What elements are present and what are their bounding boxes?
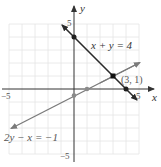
intersection-label: (3, 1) (121, 74, 143, 86)
line2-equation-label: 2y − x = −1 (4, 131, 58, 143)
y-tick-pos5: 5 (67, 18, 72, 28)
x-tick-neg5: −5 (1, 91, 11, 101)
point-0-4 (72, 35, 77, 40)
y-tick-neg5: −5 (60, 151, 70, 161)
point-4-0 (124, 87, 129, 92)
x-axis-label: x (151, 91, 157, 103)
point-1-0 (85, 87, 90, 92)
coordinate-graph: x y −5 5 5 −5 x + y = 4 2y − x = −1 (3, … (0, 0, 161, 167)
intersection-point-3-1 (111, 74, 116, 79)
y-axis-label: y (79, 2, 85, 14)
point-0-neg0.5 (72, 93, 77, 98)
line1-equation-label: x + y = 4 (90, 39, 133, 51)
